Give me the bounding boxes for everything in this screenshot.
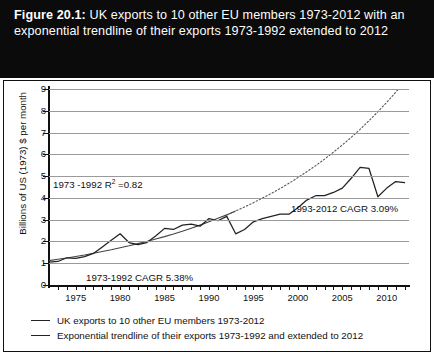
x-axis-tick-label: 1985 (148, 292, 182, 303)
x-axis-tick-label: 1980 (103, 292, 137, 303)
x-axis-tick (316, 285, 317, 290)
x-axis-tick (147, 285, 148, 290)
x-axis-tick (342, 285, 343, 290)
x-axis-tick (236, 285, 237, 290)
x-axis-tick (253, 285, 254, 290)
x-axis-tick (93, 285, 94, 290)
legend-line-swatch-trendline (31, 335, 50, 336)
annotation-cagr-late: 1993-2012 CAGR 3.09% (291, 203, 398, 214)
legend-item-trendline: Exponential trendline of their exports 1… (31, 328, 363, 343)
x-axis-tick (405, 285, 406, 290)
gridline (49, 176, 409, 177)
legend-label-trendline: Exponential trendline of their exports 1… (57, 330, 363, 341)
y-axis-tick-labels: 0123456789 (20, 0, 46, 360)
x-axis-tick (307, 285, 308, 290)
x-axis-tick (173, 285, 174, 290)
annotation-cagr-early: 1973-1992 CAGR 5.38% (86, 272, 193, 283)
x-axis-tick (165, 285, 166, 290)
x-axis-tick-label: 2000 (281, 292, 315, 303)
x-axis-tick (111, 285, 112, 290)
x-axis-tick (271, 285, 272, 290)
x-axis-tick (138, 285, 139, 290)
x-axis-tick (209, 285, 210, 290)
gridline (49, 111, 409, 112)
x-axis-tick (262, 285, 263, 290)
page-title: Figure 20.1: UK exports to 10 other EU m… (14, 7, 422, 40)
x-axis-tick (129, 285, 130, 290)
gridline (49, 220, 409, 221)
x-axis-tick (360, 285, 361, 290)
legend-line-swatch-series (31, 320, 50, 321)
x-axis-tick-label: 1975 (59, 292, 93, 303)
x-axis-tick (289, 285, 290, 290)
x-axis-tick-label: 2010 (370, 292, 404, 303)
annotation-r-squared-pre: 1973 -1992 R (53, 179, 112, 190)
x-axis-tick (396, 285, 397, 290)
gridline (49, 198, 409, 199)
x-axis-tick-label: 2005 (325, 292, 359, 303)
x-axis-tick (280, 285, 281, 290)
x-axis-tick-label: 1995 (236, 292, 270, 303)
x-axis-tick (67, 285, 68, 290)
x-axis-tick (325, 285, 326, 290)
annotation-r-squared: 1973 -1992 R2 =0.82 (53, 178, 143, 190)
x-axis-tick (378, 285, 379, 290)
x-axis-tick (387, 285, 388, 290)
x-axis-tick (227, 285, 228, 290)
x-axis-tick (120, 285, 121, 290)
trendline-fitted-segment (49, 211, 236, 261)
gridline (49, 263, 409, 264)
annotation-r-squared-post: =0.82 (115, 179, 142, 190)
legend-label-series: UK exports to 10 other EU members 1973-2… (57, 315, 264, 326)
gridline (49, 241, 409, 242)
x-axis-tick (369, 285, 370, 290)
x-axis-tick (333, 285, 334, 290)
x-axis-tick (191, 285, 192, 290)
x-axis-tick (245, 285, 246, 290)
x-axis-tick (182, 285, 183, 290)
x-axis-tick (218, 285, 219, 290)
legend-item-series: UK exports to 10 other EU members 1973-2… (31, 313, 363, 328)
figure-container: Figure 20.1: UK exports to 10 other EU m… (0, 0, 434, 360)
gridline (49, 154, 409, 155)
x-axis-tick (58, 285, 59, 290)
x-axis-tick (76, 285, 77, 290)
x-axis-tick (102, 285, 103, 290)
figure-title-banner: Figure 20.1: UK exports to 10 other EU m… (0, 0, 434, 78)
gridline (49, 133, 409, 134)
chart-legend: UK exports to 10 other EU members 1973-2… (31, 313, 363, 343)
x-axis-tick (200, 285, 201, 290)
x-axis-tick (156, 285, 157, 290)
x-axis-tick (298, 285, 299, 290)
x-axis-tick-label: 1990 (192, 292, 226, 303)
x-axis-tick (351, 285, 352, 290)
x-axis-tick (85, 285, 86, 290)
gridline (49, 89, 409, 90)
page-bleed-text (0, 353, 434, 360)
